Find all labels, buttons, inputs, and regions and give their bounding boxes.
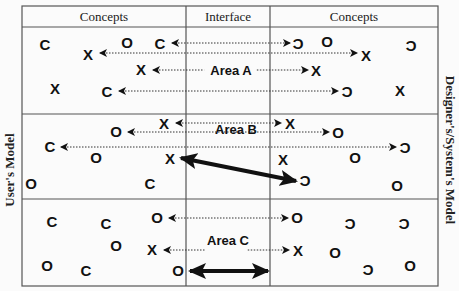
x-concept-symbol: X (165, 150, 175, 167)
o-concept-symbol: O (321, 33, 333, 50)
x-concept-symbol: X (293, 242, 303, 259)
x-concept-symbol: X (395, 82, 405, 99)
o-concept-symbol: O (332, 124, 344, 141)
c-concept-symbol: C (45, 138, 56, 155)
x-concept-symbol: X (361, 47, 371, 64)
area-c-label: Area C (207, 233, 250, 248)
header-concepts-right: Concepts (330, 9, 378, 24)
x-concept-symbol: X (83, 46, 93, 63)
reversed-c-concept-symbol: C (299, 172, 310, 189)
o-concept-symbol: O (90, 149, 102, 166)
reversed-c-concept-symbol: C (405, 37, 416, 54)
x-concept-symbol: X (311, 62, 321, 79)
c-concept-symbol: C (155, 35, 166, 52)
c-concept-symbol: C (40, 36, 51, 53)
o-concept-symbol: O (110, 123, 122, 140)
header-interface: Interface (205, 9, 251, 24)
c-concept-symbol: C (81, 262, 92, 279)
area-a-label: Area A (210, 63, 252, 78)
reversed-c-concept-symbol: C (398, 215, 409, 232)
o-concept-symbol: O (349, 149, 361, 166)
reversed-c-concept-symbol: C (344, 215, 355, 232)
o-concept-symbol: O (151, 209, 163, 226)
reversed-c-concept-symbol: C (292, 35, 303, 52)
c-concept-symbol: C (47, 213, 58, 230)
o-concept-symbol: O (172, 262, 184, 279)
x-concept-symbol: X (147, 241, 157, 258)
o-concept-symbol: O (41, 257, 53, 274)
o-concept-symbol: O (25, 175, 37, 192)
c-concept-symbol: C (102, 83, 113, 100)
o-concept-symbol: O (110, 237, 122, 254)
x-concept-symbol: X (50, 80, 60, 97)
area-b-label: Area B (215, 122, 257, 137)
side-label-designers-system-model: Designer's/System's Model (443, 76, 458, 225)
o-concept-symbol: O (121, 34, 133, 51)
o-concept-symbol: O (404, 257, 416, 274)
x-concept-symbol: X (278, 151, 288, 168)
x-concept-symbol: X (285, 115, 295, 132)
mental-model-diagram: Concepts Interface Concepts User's Model… (0, 0, 459, 291)
c-concept-symbol: C (101, 215, 112, 232)
o-concept-symbol: O (291, 209, 303, 226)
reversed-c-concept-symbol: C (399, 139, 410, 156)
o-concept-symbol: O (391, 177, 403, 194)
x-concept-symbol: X (136, 61, 146, 78)
header-concepts-left: Concepts (80, 9, 128, 24)
reversed-c-concept-symbol: C (362, 261, 373, 278)
reversed-c-concept-symbol: C (341, 83, 352, 100)
x-concept-symbol: X (159, 115, 169, 132)
side-label-users-model: User's Model (2, 133, 17, 207)
c-concept-symbol: C (145, 175, 156, 192)
o-concept-symbol: O (329, 244, 341, 261)
diagram-canvas: Concepts Interface Concepts User's Model… (0, 0, 459, 291)
